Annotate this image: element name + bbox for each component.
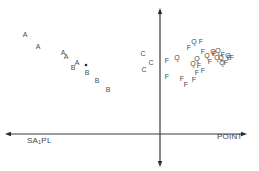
data-point-f: F — [184, 81, 188, 88]
data-markers: AAAAABBBBCCCQQQQQQQQQQQFFFFFFFFFFFFFFFFF — [23, 31, 234, 93]
arrow-up-icon — [158, 8, 162, 14]
data-point-f: F — [165, 73, 169, 80]
data-point-a: A — [75, 59, 80, 66]
data-point-b: B — [106, 86, 111, 93]
data-point-c: C — [140, 50, 145, 57]
data-point-f: F — [221, 51, 225, 58]
right-axis-label: POINT — [217, 132, 242, 141]
data-point-a: A — [23, 31, 28, 38]
left-axis-label-main: SA — [27, 136, 38, 145]
data-point-f: F — [208, 58, 212, 65]
data-point-f: F — [187, 44, 191, 51]
data-point-f: F — [230, 54, 234, 61]
data-point-b: B — [95, 77, 100, 84]
data-point-q: Q — [190, 60, 196, 68]
data-point-f: F — [192, 76, 196, 83]
data-point-c: C — [148, 59, 153, 66]
data-point-b: B — [71, 64, 76, 71]
data-point-a: A — [36, 43, 41, 50]
data-point-f: F — [201, 67, 205, 74]
arrow-down-icon — [158, 161, 162, 167]
data-point-f: F — [201, 48, 205, 55]
data-point-q: Q — [174, 54, 180, 62]
data-point-q: Q — [191, 38, 197, 46]
scatter-plot: AAAAABBBBCCCQQQQQQQQQQQFFFFFFFFFFFFFFFFF — [0, 0, 259, 171]
data-point-dot — [85, 64, 88, 67]
arrow-left-icon — [5, 132, 11, 136]
data-point-f: F — [199, 38, 203, 45]
data-point-b: B — [85, 69, 90, 76]
data-point-f: F — [165, 57, 169, 64]
left-axis-label-tail: PL — [41, 136, 51, 145]
left-axis-label: SA1PL — [27, 136, 52, 145]
data-point-f: F — [195, 69, 199, 76]
data-point-c: C — [141, 66, 146, 73]
data-point-f: F — [212, 50, 216, 57]
data-point-a: A — [64, 53, 69, 60]
